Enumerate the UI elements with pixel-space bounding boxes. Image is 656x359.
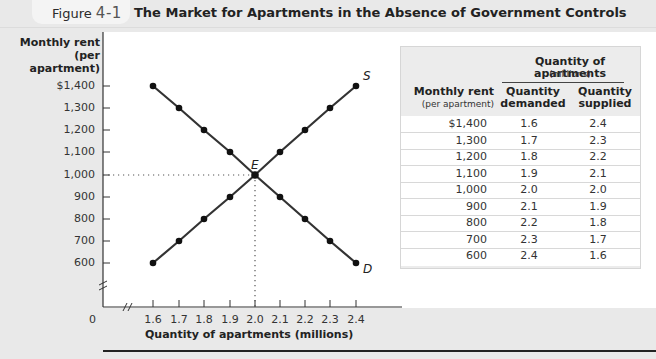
table-row: 1,000 2.0 2.0 xyxy=(401,182,640,199)
table-row: 1,300 1.7 2.3 xyxy=(401,133,640,150)
table-row: 800 2.2 1.8 xyxy=(401,215,640,232)
cell-rent: 700 xyxy=(401,232,487,248)
cell-rent: 600 xyxy=(401,248,487,264)
equilibrium-label: E xyxy=(251,158,259,172)
cell-quantity-supplied: 1.8 xyxy=(578,215,618,231)
table-group-divider xyxy=(502,82,624,83)
cell-quantity-demanded: 2.2 xyxy=(509,215,549,231)
cell-quantity-demanded: 2.0 xyxy=(509,182,549,198)
cell-rent: 900 xyxy=(401,199,487,215)
cell-rent: 1,200 xyxy=(401,149,487,165)
table-row: 700 2.3 1.7 xyxy=(401,232,640,249)
table-header-rent: Monthly rent (per apartment) xyxy=(408,86,494,110)
demand-curve-label: D xyxy=(363,262,372,276)
supply-curve-label: S xyxy=(363,69,371,83)
cell-quantity-demanded: 2.3 xyxy=(509,232,549,248)
cell-quantity-demanded: 1.6 xyxy=(509,116,549,132)
table-header-rent-line2: (per apartment) xyxy=(408,98,494,110)
table-body: $1,400 1.6 2.4 1,300 1.7 2.3 1,200 1.8 2… xyxy=(401,116,640,266)
table-row: $1,400 1.6 2.4 xyxy=(401,116,640,133)
cell-quantity-supplied: 2.4 xyxy=(578,116,618,132)
table-header-rent-line1: Monthly rent xyxy=(408,86,494,98)
cell-rent: 1,100 xyxy=(401,166,487,182)
cell-quantity-demanded: 1.7 xyxy=(509,133,549,149)
footer-divider xyxy=(103,350,656,352)
equilibrium-point xyxy=(251,171,259,179)
cell-quantity-supplied: 2.0 xyxy=(578,182,618,198)
cell-rent: 800 xyxy=(401,215,487,231)
table-header-qd-line2: demanded xyxy=(500,98,566,110)
table-row: 600 2.4 1.6 xyxy=(401,248,640,264)
table-header-quantity-supplied: Quantity supplied xyxy=(572,86,638,110)
cell-quantity-supplied: 1.7 xyxy=(578,232,618,248)
cell-quantity-supplied: 2.1 xyxy=(578,166,618,182)
cell-quantity-supplied: 2.3 xyxy=(578,133,618,149)
table-row: 900 2.1 1.9 xyxy=(401,199,640,216)
cell-rent: 1,300 xyxy=(401,133,487,149)
cell-quantity-supplied: 2.2 xyxy=(578,149,618,165)
cell-quantity-supplied: 1.6 xyxy=(578,248,618,264)
cell-quantity-supplied: 1.9 xyxy=(578,199,618,215)
table-row: 1,100 1.9 2.1 xyxy=(401,166,640,183)
cell-quantity-demanded: 2.4 xyxy=(509,248,549,264)
cell-rent: 1,000 xyxy=(401,182,487,198)
cell-quantity-demanded: 1.9 xyxy=(509,166,549,182)
cell-quantity-demanded: 1.8 xyxy=(509,149,549,165)
table-row: 1,200 1.8 2.2 xyxy=(401,149,640,166)
table-header-quantity-demanded: Quantity demanded xyxy=(500,86,566,110)
cell-quantity-demanded: 2.1 xyxy=(509,199,549,215)
table-header-qs-line2: supplied xyxy=(572,98,638,110)
table-group-subtitle: (millions) xyxy=(501,69,639,79)
cell-rent: $1,400 xyxy=(401,116,487,132)
